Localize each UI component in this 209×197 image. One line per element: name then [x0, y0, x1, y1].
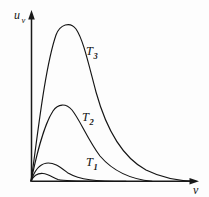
x-axis-label-main: ν: [193, 183, 199, 197]
curve-label-T3: T 3: [86, 44, 99, 61]
curve-T0: [31, 173, 96, 181]
spectral-distribution-plot: u ν ν T 1 T 2 T 3: [0, 0, 209, 197]
curve-label-T2-subscript: 2: [89, 117, 95, 127]
curve-T1: [31, 163, 126, 181]
curve-label-T3-subscript: 3: [93, 51, 99, 61]
blackbody-chart-figure: u ν ν T 1 T 2 T 3: [0, 0, 209, 197]
x-axis-label: ν: [193, 183, 199, 197]
curve-label-T1-subscript: 1: [94, 162, 98, 172]
curve-T3: [31, 25, 196, 182]
y-axis-group: [28, 10, 35, 182]
y-axis-arrowhead: [28, 10, 35, 20]
curves-group: [31, 25, 196, 182]
curve-label-T1: T 1: [86, 155, 98, 172]
y-axis-label-subscript: ν: [22, 15, 26, 25]
curve-label-T2: T 2: [82, 110, 95, 127]
y-axis-label: u ν: [14, 8, 26, 25]
y-axis-label-main: u: [14, 8, 20, 22]
